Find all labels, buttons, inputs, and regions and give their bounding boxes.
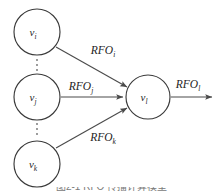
node-circle-target-center [126,75,170,119]
node-label-source-bottom-sub: k [34,164,38,173]
figure-canvas: vi vj vk vl RFOi RFOj RFOk [0,0,223,195]
node-label-target-center-sub: l [145,97,147,106]
node-label-source-top: vi [30,26,37,41]
ellipsis-dot [36,64,38,66]
edge-label-top-base: RFO [90,44,114,56]
ellipsis-dot [36,123,38,125]
node-label-source-middle-sub: j [33,97,36,106]
edge-label-middle-sub: j [90,86,93,95]
figure-caption-strip: 图2-1 RFO 传播计算模型 [0,187,223,195]
edge-label-top-sub: i [113,50,115,59]
edge-label-output-sub: l [198,84,200,93]
edge-label-middle-base: RFO [68,80,92,92]
node-label-source-middle: vj [30,91,37,106]
node-aggregation-diagram: vi vj vk vl RFOi RFOj RFOk [0,0,223,195]
edge-group [56,47,212,148]
edge-label-output: RFOl [175,78,200,93]
figure-caption: 图2-1 RFO 传播计算模型 [0,187,223,193]
ellipsis-upper [36,59,38,71]
ellipsis-dot [36,133,38,135]
edge-label-bottom: RFOk [89,131,116,146]
node-label-source-bottom: vk [29,158,38,173]
edge-label-middle: RFOj [68,80,93,95]
edge-label-output-base: RFO [175,78,199,90]
node-circle-source-middle [14,74,60,120]
node-circle-source-top [14,9,60,55]
node-label-group: vi vj vk vl [29,26,148,173]
ellipsis-lower [36,123,38,135]
node-label-target-center: vl [141,91,148,106]
edge-label-bottom-sub: k [113,137,117,146]
ellipsis-dot [36,59,38,61]
edge-label-bottom-base: RFO [89,131,113,143]
edge-label-top: RFOi [90,44,115,59]
ellipsis-dot [36,128,38,130]
ellipsis-dot [36,69,38,71]
node-label-source-top-sub: i [34,32,36,41]
